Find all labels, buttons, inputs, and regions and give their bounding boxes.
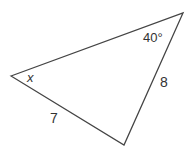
side-7-label: 7 <box>50 110 58 126</box>
angle-40-label: 40° <box>143 30 163 45</box>
angle-x-label: x <box>26 70 34 85</box>
triangle-diagram: x 40° 7 8 <box>0 0 187 150</box>
side-8-label: 8 <box>160 74 168 90</box>
